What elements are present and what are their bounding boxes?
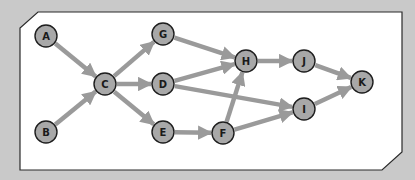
node-label: I	[302, 104, 306, 115]
node-e: E	[152, 121, 174, 143]
node-f: F	[212, 122, 234, 144]
node-h: H	[235, 50, 257, 72]
directed-graph: ABCGDEFHJIK	[0, 0, 415, 180]
node-k: K	[351, 71, 373, 93]
node-label: K	[358, 77, 367, 88]
node-label: J	[301, 56, 306, 67]
node-label: C	[101, 79, 108, 90]
edge-e-f	[175, 132, 211, 133]
node-label: D	[159, 79, 167, 90]
node-label: A	[42, 31, 50, 42]
node-label: B	[42, 127, 50, 138]
node-label: E	[160, 127, 167, 138]
diagram-canvas: ABCGDEFHJIK	[0, 0, 415, 180]
node-j: J	[293, 50, 315, 72]
node-d: D	[152, 73, 174, 95]
node-b: B	[35, 121, 57, 143]
node-c: C	[94, 73, 116, 95]
node-label: F	[220, 128, 227, 139]
node-i: I	[293, 98, 315, 120]
node-label: H	[242, 56, 250, 67]
node-label: G	[159, 29, 167, 40]
node-a: A	[35, 25, 57, 47]
node-g: G	[152, 23, 174, 45]
